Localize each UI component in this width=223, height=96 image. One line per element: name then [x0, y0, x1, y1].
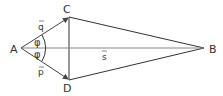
angle-label-phi-1: φ: [34, 37, 41, 48]
vector-q: [21, 18, 68, 48]
angle-label-phi-2: φ: [34, 49, 41, 60]
vector-label-p: p: [38, 67, 44, 77]
kite-vector-diagram: A B C D q p s φ φ: [0, 0, 223, 96]
point-label-a: A: [10, 43, 18, 56]
segment-cb: [69, 17, 204, 48]
point-label-c: C: [63, 3, 71, 16]
point-label-b: B: [209, 43, 217, 56]
vector-label-s: s: [102, 52, 107, 62]
point-label-d: D: [63, 82, 71, 95]
vector-p: [21, 48, 68, 79]
segment-db: [69, 48, 204, 80]
vector-label-q: q: [38, 22, 44, 32]
